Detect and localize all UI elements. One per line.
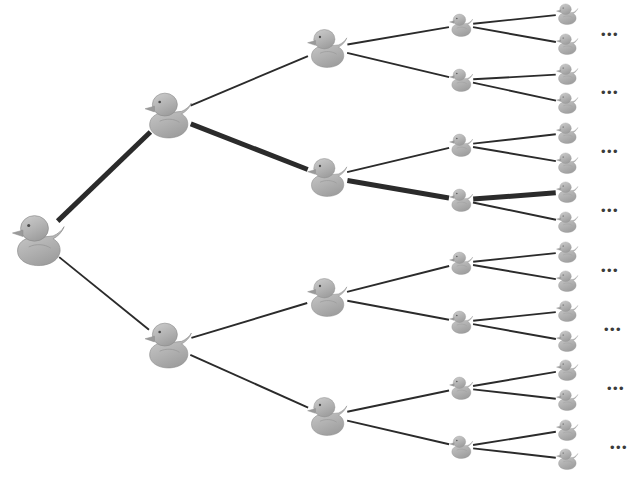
ellipsis-icon: ••• (601, 145, 619, 158)
duck-icon[interactable] (448, 434, 474, 460)
tree-edge (473, 448, 556, 457)
tree-edge (59, 257, 149, 330)
tree-edge (473, 15, 556, 24)
duck-icon[interactable] (142, 89, 194, 141)
duck-icon[interactable] (448, 375, 474, 401)
duck-icon[interactable] (555, 2, 579, 26)
duck-icon[interactable] (555, 210, 579, 234)
tree-edge (473, 253, 556, 262)
tree-edge (191, 303, 307, 338)
tree-edge (473, 389, 556, 398)
duck-icon[interactable] (305, 275, 349, 319)
ellipsis-icon: ••• (601, 204, 619, 217)
duck-icon[interactable] (555, 180, 579, 204)
duck-icon[interactable] (555, 121, 579, 145)
duck-icon[interactable] (448, 132, 474, 158)
duck-icon[interactable] (448, 67, 474, 93)
duck-icon[interactable] (305, 26, 349, 70)
ellipsis-icon: ••• (601, 28, 619, 41)
duck-icon[interactable] (555, 151, 579, 175)
duck-icon[interactable] (555, 418, 579, 442)
duck-icon[interactable] (555, 32, 579, 56)
ellipsis-icon: ••• (601, 264, 619, 277)
tree-edge (473, 27, 556, 42)
tree-edge (473, 202, 556, 219)
duck-icon[interactable] (555, 240, 579, 264)
tree-edge (347, 391, 449, 412)
duck-icon[interactable] (448, 187, 474, 213)
tree-edge (473, 324, 556, 339)
duck-icon[interactable] (305, 394, 349, 438)
duck-icon[interactable] (555, 447, 579, 471)
duck-tree-figure: •••••••••••••••••••••••• (0, 0, 641, 485)
tree-edge-highlighted (191, 124, 308, 170)
tree-edge (347, 266, 449, 292)
tree-edge (473, 432, 556, 445)
tree-edge (473, 312, 556, 321)
tree-edge (191, 56, 308, 105)
duck-icon[interactable] (555, 329, 579, 353)
tree-edge (347, 301, 449, 320)
duck-icon[interactable] (448, 309, 474, 335)
tree-edge (473, 147, 556, 161)
tree-edge (347, 53, 449, 77)
tree-edge (473, 265, 556, 279)
tree-edge (473, 83, 556, 101)
duck-icon[interactable] (142, 319, 194, 371)
duck-icon[interactable] (305, 155, 349, 199)
ellipsis-icon: ••• (607, 382, 625, 395)
duck-icon[interactable] (555, 388, 579, 412)
duck-icon[interactable] (448, 12, 474, 38)
tree-edge (347, 148, 449, 172)
duck-icon[interactable] (555, 269, 579, 293)
tree-edge (473, 134, 556, 143)
duck-icon[interactable] (448, 250, 474, 276)
duck-icon[interactable] (555, 91, 579, 115)
duck-icon[interactable] (555, 358, 579, 382)
duck-icon[interactable] (555, 62, 579, 86)
ellipsis-icon: ••• (601, 86, 619, 99)
tree-edge (473, 75, 556, 80)
tree-edge-highlighted (347, 181, 449, 198)
ellipsis-icon: ••• (604, 323, 622, 336)
tree-edge (190, 355, 308, 408)
tree-edge (473, 372, 556, 386)
duck-icon[interactable] (9, 211, 67, 269)
tree-edge (347, 421, 449, 445)
duck-icon[interactable] (555, 299, 579, 323)
tree-edge-highlighted (58, 132, 151, 221)
tree-edge-highlighted (473, 193, 556, 199)
ellipsis-icon: ••• (610, 441, 628, 454)
tree-edge (347, 27, 449, 44)
